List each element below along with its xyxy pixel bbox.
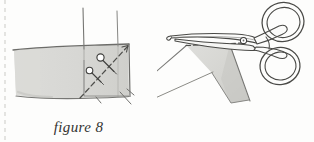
fold-line-left bbox=[157, 45, 187, 76]
fold-line-left-lower bbox=[157, 72, 213, 99]
vertical-seam-line-left bbox=[83, 8, 84, 49]
scissors-shank-lower bbox=[254, 47, 287, 59]
fabric-right-edge bbox=[129, 44, 130, 97]
fabric-left-feather bbox=[14, 48, 41, 97]
scissors-blade-tip bbox=[167, 36, 171, 40]
figure-9-illustration: figure 9 bbox=[157, 0, 314, 142]
scanned-book-page: figure 8 bbox=[0, 0, 314, 142]
figure-8-illustration: figure 8 bbox=[0, 0, 157, 142]
figure-8-caption: figure 8 bbox=[0, 119, 157, 136]
vertical-seam-line-right bbox=[117, 11, 118, 46]
scissors-pivot-screw-center bbox=[243, 40, 245, 42]
